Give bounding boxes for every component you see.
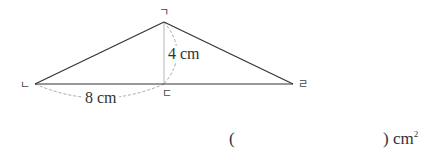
vertex-label-top: ㄱ [159, 7, 169, 18]
height-measurement: 4 cm [168, 46, 200, 62]
base-measurement: 8 cm [83, 90, 119, 106]
vertex-label-left: ㄴ [20, 80, 30, 91]
answer-input-area[interactable] [240, 130, 380, 148]
answer-close-paren-unit: ) cm2 [383, 130, 418, 147]
answer-open-paren: ( [229, 130, 235, 147]
answer-unit-exponent: 2 [414, 129, 419, 139]
vertex-label-foot: ㄷ [162, 88, 172, 99]
edge-top-left [35, 22, 164, 84]
answer-close-paren: ) [383, 129, 389, 148]
answer-unit: cm [393, 129, 414, 148]
vertex-label-right: ㄹ [298, 79, 308, 90]
